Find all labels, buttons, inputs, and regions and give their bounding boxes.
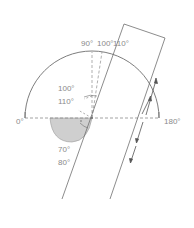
ray-110-dashed	[78, 110, 92, 118]
label-inner-100: 100°	[58, 84, 75, 93]
protractor-diagram: 0° 180° 90° 100° 110° 100° 110° 70° 80°	[0, 0, 194, 228]
label-inner-110: 110°	[58, 97, 74, 106]
label-lower-70: 70°	[58, 145, 70, 154]
strip-right-edge	[110, 38, 165, 199]
label-180: 180°	[164, 117, 181, 126]
down-arrows	[130, 122, 144, 163]
vertex-dot	[91, 117, 93, 119]
label-0: 0°	[16, 117, 24, 126]
shaded-region	[50, 118, 92, 142]
label-lower-80: 80°	[58, 158, 70, 167]
label-top-100: 100°	[97, 39, 114, 48]
ray-100-dashed	[92, 52, 102, 118]
strip-left-edge	[62, 24, 124, 199]
label-top-90: 90°	[81, 39, 93, 48]
label-top-110: 110°	[113, 39, 129, 48]
angle-dot	[80, 120, 82, 122]
strip-top-edge	[124, 24, 165, 38]
